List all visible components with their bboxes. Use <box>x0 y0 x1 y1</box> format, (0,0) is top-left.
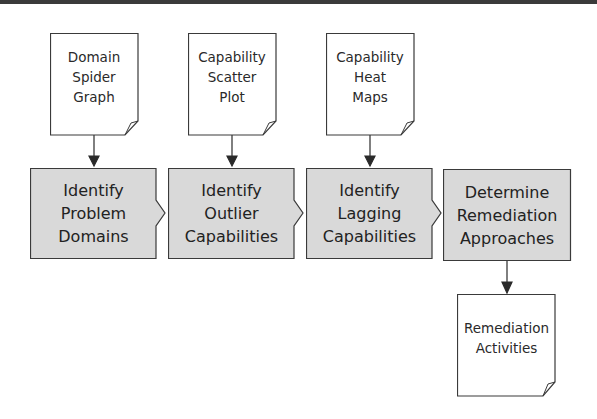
document-label-line: Capability <box>336 47 404 67</box>
step-label-line: Identify <box>201 179 261 202</box>
input-document-capability-scatter-plot: Capability Scatter Plot <box>188 33 276 135</box>
step-label-line: Lagging <box>338 202 402 225</box>
step-label-line: Identify <box>63 179 123 202</box>
document-label-line: Capability <box>198 47 266 67</box>
step-label-line: Capabilities <box>323 225 416 248</box>
step-identify-lagging-capabilities: Identify Lagging Capabilities <box>306 168 433 259</box>
document-label-line: Heat <box>354 67 386 87</box>
step-label-line: Remediation <box>457 204 558 227</box>
document-label-line: Graph <box>73 87 114 107</box>
document-label-line: Maps <box>352 87 388 107</box>
step-label-line: Determine <box>465 181 550 204</box>
step-label-line: Identify <box>339 179 399 202</box>
step-label-line: Outlier <box>204 202 258 225</box>
document-label-line: Remediation <box>464 318 549 338</box>
document-label-line: Plot <box>219 87 244 107</box>
input-document-domain-spider-graph: Domain Spider Graph <box>50 33 138 135</box>
step-label-line: Problem <box>61 202 126 225</box>
step-identify-outlier-capabilities: Identify Outlier Capabilities <box>168 168 295 259</box>
document-label-line: Scatter <box>208 67 257 87</box>
step-label-line: Approaches <box>460 227 554 250</box>
step-label-line: Domains <box>58 225 128 248</box>
output-document-remediation-activities: Remediation Activities <box>457 294 556 396</box>
document-label-line: Domain <box>68 47 120 67</box>
step-determine-remediation-approaches: Determine Remediation Approaches <box>443 169 571 261</box>
document-label-line: Activities <box>476 338 538 358</box>
step-identify-problem-domains: Identify Problem Domains <box>30 168 157 259</box>
input-document-capability-heat-maps: Capability Heat Maps <box>326 33 414 135</box>
document-label-line: Spider <box>72 67 115 87</box>
step-label-line: Capabilities <box>185 225 278 248</box>
